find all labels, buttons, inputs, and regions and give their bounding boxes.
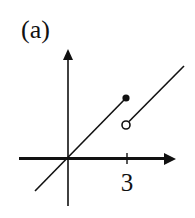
- x-tick-label: 3: [121, 169, 134, 196]
- figure-canvas: (a) 3: [0, 0, 195, 218]
- line-segment-1: [35, 98, 126, 191]
- graph: (a) 3: [0, 0, 195, 218]
- open-endpoint-circle: [122, 121, 130, 129]
- x-axis-arrow-icon: [164, 153, 176, 165]
- y-axis-arrow-icon: [63, 49, 73, 60]
- closed-endpoint-dot: [122, 94, 129, 101]
- panel-label: (a): [21, 15, 50, 44]
- line-segment-2: [129, 66, 184, 122]
